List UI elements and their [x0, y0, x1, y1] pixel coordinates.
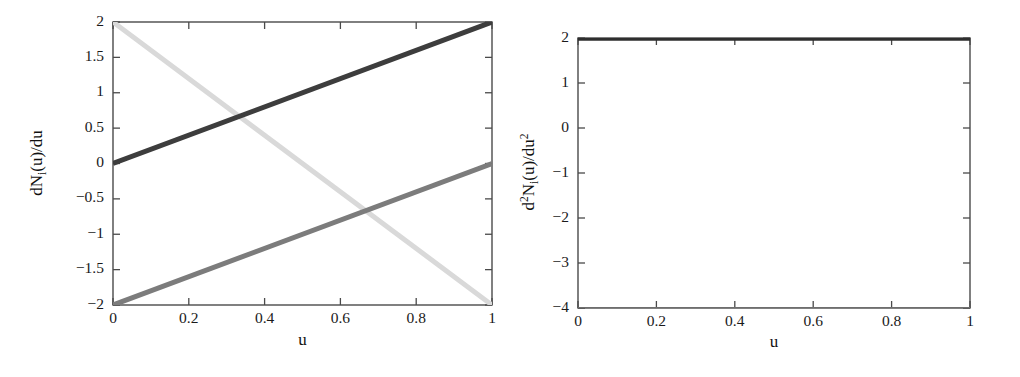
x-tick-label-right-3: 0.6 — [804, 312, 824, 329]
x-axis-title-left: u — [298, 330, 307, 349]
y-tick-label-right-6: 2 — [561, 28, 569, 45]
data-line-left-2 — [113, 164, 492, 306]
y-tick-label-right-5: 1 — [561, 73, 569, 90]
x-tick-label-left-1: 0.2 — [179, 309, 198, 326]
x-tick-label-right-1: 0.2 — [647, 312, 666, 329]
axes-frame-right — [578, 38, 970, 308]
y-tick-label-left-5: 0.5 — [85, 118, 105, 135]
y-tick-label-left-8: 2 — [96, 12, 104, 29]
x-tick-label-left-3: 0.6 — [331, 309, 351, 326]
plot-area-left: −2−1.5−1−0.500.511.5200.20.40.60.81udNi(… — [0, 0, 510, 377]
y-axis-title-left: dNi(u)/du — [27, 130, 48, 196]
series-group-left — [113, 22, 492, 305]
y-tick-label-right-1: −3 — [553, 253, 570, 270]
x-tick-label-right-2: 0.4 — [725, 312, 745, 329]
y-tick-label-right-3: −1 — [553, 163, 570, 180]
y-tick-label-left-6: 1 — [96, 82, 104, 99]
x-tick-label-left-4: 0.8 — [407, 309, 427, 326]
y-tick-label-left-1: −1.5 — [76, 259, 104, 276]
x-axis-title-right: u — [770, 332, 779, 351]
y-tick-label-right-4: 0 — [561, 118, 569, 135]
data-line-left-1 — [113, 22, 492, 164]
chart-panel-right: −4−3−2−101200.20.40.60.81ud2Ni(u)/du2 — [510, 0, 1020, 377]
series-group-right — [578, 38, 970, 308]
x-tick-label-right-5: 1 — [966, 312, 974, 329]
y-tick-label-left-4: 0 — [96, 153, 104, 170]
x-tick-label-right-0: 0 — [574, 312, 582, 329]
y-axis-title-right: d2Ni(u)/du2 — [518, 133, 540, 210]
x-tick-label-left-0: 0 — [109, 309, 117, 326]
x-tick-label-left-2: 0.4 — [255, 309, 275, 326]
x-tick-label-right-4: 0.8 — [882, 312, 902, 329]
y-tick-label-left-2: −1 — [88, 224, 105, 241]
y-tick-label-right-0: −4 — [553, 298, 570, 315]
x-tick-label-left-5: 1 — [488, 309, 496, 326]
y-tick-label-left-7: 1.5 — [85, 47, 105, 64]
plot-area-right: −4−3−2−101200.20.40.60.81ud2Ni(u)/du2 — [510, 0, 1020, 377]
y-tick-label-left-3: −0.5 — [76, 188, 104, 205]
chart-panel-left: −2−1.5−1−0.500.511.5200.20.40.60.81udNi(… — [0, 0, 510, 377]
y-tick-label-left-0: −2 — [88, 295, 105, 312]
figure-root: −2−1.5−1−0.500.511.5200.20.40.60.81udNi(… — [0, 0, 1020, 377]
y-tick-label-right-2: −2 — [553, 208, 570, 225]
data-line-left-0 — [113, 22, 492, 305]
